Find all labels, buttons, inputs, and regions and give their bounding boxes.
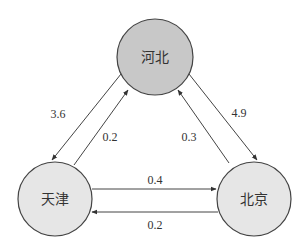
node-label-tianjin: 天津 — [41, 191, 69, 207]
edge-label-hebei-beijing: 4.9 — [232, 106, 247, 120]
edge-label-tianjin-hebei: 0.2 — [103, 130, 118, 144]
edge-label-beijing-hebei: 0.3 — [182, 130, 197, 144]
node-beijing: 北京 — [217, 162, 291, 236]
node-label-hebei: 河北 — [141, 49, 169, 65]
node-tianjin: 天津 — [18, 162, 92, 236]
edge-hebei-to-beijing — [189, 74, 257, 160]
edge-label-hebei-tianjin: 3.6 — [51, 107, 66, 121]
node-label-beijing: 北京 — [240, 191, 268, 207]
edge-beijing-to-hebei — [178, 90, 229, 163]
edge-label-tianjin-beijing: 0.4 — [148, 173, 163, 187]
flow-diagram: 3.6 0.2 4.9 0.3 0.4 0.2 河北 天津 北京 — [0, 0, 305, 252]
node-hebei: 河北 — [117, 19, 193, 95]
edge-tianjin-to-hebei — [74, 90, 128, 165]
edge-label-beijing-tianjin: 0.2 — [148, 218, 163, 232]
